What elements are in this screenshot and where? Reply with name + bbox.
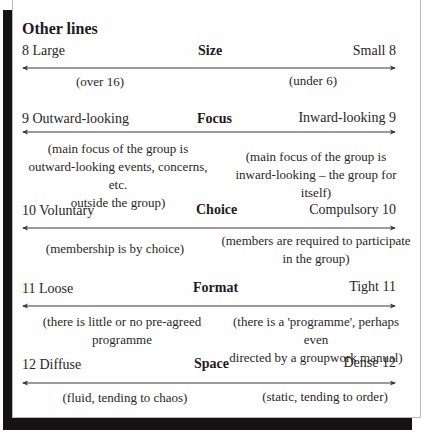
dimension-title: Focus [197,110,232,127]
right-pole-description: (members are required to participate in … [220,232,412,268]
left-pole-description: (fluid, tending to chaos) [50,389,200,407]
left-pole-description: (there is little or no pre-agreed progra… [36,313,208,349]
right-pole-label: Compulsory 10 [309,201,396,218]
right-pole-description: (under 6) [253,72,373,90]
double-arrow-icon [21,302,397,310]
double-arrow-icon [21,379,397,387]
left-pole-label: 12 Diffuse [22,356,81,373]
double-arrow-icon [21,128,397,136]
left-pole-label: 11 Loose [22,280,73,297]
right-pole-description: (static, tending to order) [250,388,400,406]
double-arrow-icon [21,224,397,232]
double-arrow-icon [21,64,397,72]
right-pole-label: Inward-looking 9 [298,109,396,126]
left-pole-description: (membership is by choice) [40,240,190,258]
dimension-title: Choice [196,201,237,218]
left-pole-label: 8 Large [22,42,65,59]
dimension-title: Size [198,42,222,59]
right-pole-description: (main focus of the group is inward-looki… [220,148,412,202]
dimension-title: Format [193,279,238,296]
left-pole-description: (over 16) [40,73,160,91]
left-pole-label: 9 Outward-looking [22,110,129,127]
dimension-title: Space [194,355,229,372]
right-pole-label: Small 8 [353,42,396,59]
left-pole-label: 10 Voluntary [22,202,94,219]
right-pole-label: Tight 11 [349,278,396,295]
section-heading: Other lines [22,20,98,37]
right-pole-label: Dense 12 [344,354,397,371]
